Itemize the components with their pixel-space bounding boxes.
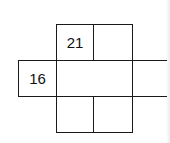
grid-line-bottom — [132, 96, 167, 97]
cell-middle-right — [132, 60, 167, 97]
cell-bottom-right — [93, 96, 133, 133]
cell-bottom-left — [56, 96, 94, 133]
cell-value: 16 — [29, 70, 46, 87]
cell-middle-center — [56, 60, 133, 97]
cell-top-left: 21 — [56, 24, 94, 61]
grid-line-top — [132, 60, 167, 61]
cell-top-right — [93, 24, 133, 61]
cell-value: 21 — [67, 34, 84, 51]
cell-middle-left: 16 — [18, 60, 57, 97]
